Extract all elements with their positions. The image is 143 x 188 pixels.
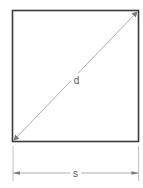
side-label: s — [73, 168, 78, 179]
square-diagonal-diagram: d s — [0, 0, 143, 188]
side-arrow-right-icon — [132, 171, 139, 175]
diagonal-label: d — [74, 75, 80, 86]
side-arrow-left-icon — [13, 171, 20, 175]
